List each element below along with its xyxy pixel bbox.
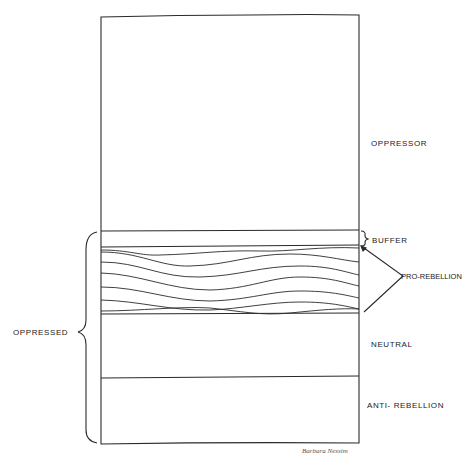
- pro-rebellion-bottom-line: [101, 313, 359, 314]
- buffer-label: BUFFER: [372, 236, 408, 245]
- buffer-brace: [361, 231, 368, 246]
- oppressor-label: OPPRESSOR: [371, 139, 427, 148]
- oppressed-label: OPPRESSED: [13, 328, 68, 337]
- pro-rebellion-label: PRO-REBELLION: [401, 272, 462, 281]
- anti-rebellion-label: ANTI- REBELLION: [367, 401, 444, 410]
- pro-rebellion-triangle: [364, 248, 403, 312]
- oppressed-brace: [78, 232, 97, 443]
- buffer-top-line: [101, 230, 359, 231]
- buffer-bottom-line: [101, 245, 359, 247]
- outer-box: [101, 15, 359, 445]
- triangle-arrowhead: [361, 246, 366, 251]
- artist-signature: Barbara Nessim: [302, 447, 348, 455]
- neutral-divider-line: [101, 376, 359, 378]
- social-strata-diagram: OPPRESSOR BUFFER PRO-REBELLION OPPRESSED…: [0, 0, 472, 474]
- pro-rebellion-waves: [101, 248, 359, 314]
- neutral-label: NEUTRAL: [371, 340, 413, 349]
